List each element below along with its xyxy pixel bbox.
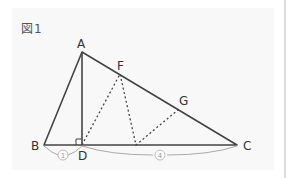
svg-text:4: 4	[158, 152, 163, 160]
svg-text:1: 1	[61, 152, 65, 160]
vertex-label-c: C	[243, 139, 251, 153]
triangle-abc	[44, 52, 237, 145]
dotted-path-dfg	[82, 74, 179, 145]
vertex-label-a: A	[77, 37, 86, 51]
ratio-bd-badge: 1	[58, 150, 68, 160]
ratio-dc-badge: 4	[155, 150, 165, 160]
vertex-label-b: B	[31, 139, 39, 153]
triangle-diagram: 1 4 A B C D F G	[0, 0, 289, 178]
vertex-label-d: D	[78, 149, 87, 163]
right-angle-marker	[76, 139, 82, 145]
vertex-label-g: G	[179, 94, 188, 108]
vertex-label-f: F	[117, 59, 124, 73]
